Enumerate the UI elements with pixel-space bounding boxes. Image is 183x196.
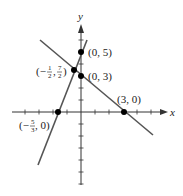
point-0-3 <box>78 73 84 79</box>
point-intersection <box>71 67 77 73</box>
label-neg53-0: (− 5 3 , 0) <box>19 118 50 134</box>
svg-text:): ) <box>63 65 67 78</box>
svg-text:(−: (− <box>36 65 46 78</box>
y-axis-label: y <box>77 10 83 22</box>
point-3-0 <box>121 109 127 115</box>
svg-text:2: 2 <box>48 72 52 80</box>
point-neg53-0 <box>55 109 61 115</box>
label-0-3: (0, 3) <box>88 70 112 83</box>
svg-text:2: 2 <box>58 72 62 80</box>
chart: y x (0, 5) (0, 3) (3, 0) (− 5 3 , 0) (− … <box>0 0 183 196</box>
svg-text:1: 1 <box>48 64 52 72</box>
y-axis-arrow-icon <box>78 24 84 33</box>
label-0-5: (0, 5) <box>88 46 112 59</box>
svg-text:, 0): , 0) <box>35 119 50 132</box>
svg-text:7: 7 <box>58 64 62 72</box>
point-0-5 <box>78 49 84 55</box>
label-intersection: (− 1 2 , 7 2 ) <box>36 64 67 80</box>
x-axis-label: x <box>169 106 175 118</box>
label-3-0: (3, 0) <box>117 93 141 106</box>
x-axis-arrow-icon <box>160 109 168 115</box>
svg-text:,: , <box>53 65 56 77</box>
svg-text:(−: (− <box>19 119 29 132</box>
